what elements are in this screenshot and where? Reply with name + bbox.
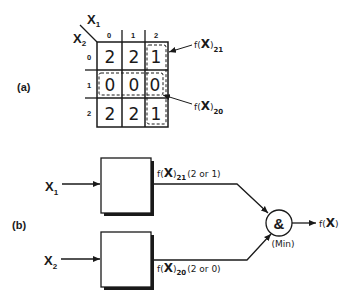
cell-0-0: 2 [105, 47, 116, 67]
cell-2-1: 2 [129, 104, 140, 124]
cell-0-1: 2 [129, 47, 140, 67]
col-header-0: 0 [107, 31, 111, 40]
row-header-2: 2 [87, 109, 91, 118]
function-box-2 [101, 232, 154, 290]
cell-1-0: 0 [105, 75, 116, 95]
axis-x1-label: X1 [87, 12, 101, 29]
part-a-label: (a) [17, 81, 31, 93]
col-header-1: 1 [131, 31, 135, 40]
callout-label-21: f(X)21 [194, 37, 223, 54]
input-x1-label: X1 [45, 179, 59, 197]
signal-label-21: f(X)21(2 or 1) [157, 166, 221, 182]
diagram-canvas: (a) X1 X2 0 1 2 0 1 2 2 2 1 0 0 0 2 2 1 [0, 0, 356, 298]
axis-x2-label: X2 [73, 31, 87, 48]
row-header-1: 1 [87, 81, 91, 90]
callout-arrow-21 [169, 45, 192, 52]
part-b-label: (b) [12, 219, 26, 231]
signal-label-20: f(X)20(2 or 0) [157, 261, 221, 277]
gate-caption: (Min) [272, 239, 295, 249]
signal-line-20 [154, 234, 271, 260]
input-x2-label: X2 [44, 253, 58, 271]
callout-label-20: f(X)20 [194, 99, 223, 116]
cell-2-2: 1 [151, 104, 162, 124]
cell-1-1: 0 [129, 75, 140, 95]
gate-symbol: & [274, 215, 285, 232]
signal-line-21 [154, 184, 268, 213]
output-label: f(X) [319, 216, 338, 230]
cell-2-0: 2 [105, 104, 116, 124]
function-box-1 [101, 158, 154, 216]
cell-1-2: 0 [150, 75, 161, 95]
row-header-0: 0 [87, 53, 91, 62]
cell-0-2: 1 [151, 47, 162, 67]
col-header-2: 2 [154, 31, 158, 40]
